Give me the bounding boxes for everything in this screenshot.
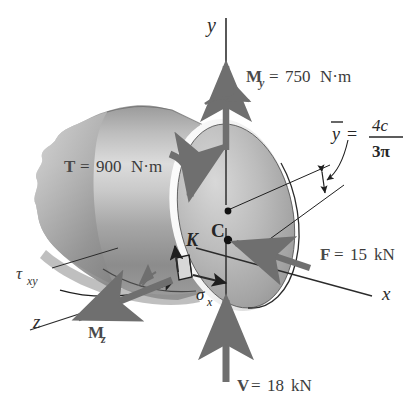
- ybar-equals: =: [347, 124, 357, 144]
- moment-y-unit: N·m: [320, 67, 351, 86]
- shear-v-symbol: V: [237, 376, 250, 395]
- ybar-denominator: 3π: [372, 142, 391, 161]
- x-axis-label: x: [381, 283, 391, 304]
- force-f-symbol: F: [320, 245, 330, 264]
- moment-y-equals: =: [269, 67, 279, 86]
- shear-v-label-group: V = 18 kN: [237, 376, 312, 395]
- torque-unit: N·m: [131, 157, 162, 176]
- moment-z-subscript: z: [100, 332, 106, 346]
- torque-equals: =: [80, 157, 90, 176]
- torque-value: 900: [96, 157, 122, 176]
- force-f-value: 15: [350, 245, 367, 264]
- y-axis-label: y: [205, 14, 216, 37]
- torque-symbol: T: [64, 157, 76, 176]
- force-f-equals: =: [334, 245, 344, 264]
- stress-point-label: K: [185, 230, 200, 250]
- ybar-point-dot: [225, 208, 232, 215]
- tau-symbol: τ: [16, 264, 23, 283]
- centroid-label: C: [211, 220, 225, 241]
- shear-v-value: 18: [267, 376, 284, 395]
- mechanics-diagram: y x z: [0, 0, 418, 400]
- shear-v-unit: kN: [291, 376, 312, 395]
- tau-subscript: xy: [26, 274, 38, 288]
- sigma-symbol: σ: [196, 285, 205, 304]
- moment-y-value: 750: [285, 67, 311, 86]
- z-axis-label: z: [32, 311, 41, 332]
- ybar-variable: y: [330, 124, 340, 144]
- ybar-numerator: 4c: [372, 116, 389, 135]
- centroid-point-dot: [224, 236, 232, 244]
- figure-container: y x z: [0, 0, 418, 400]
- shear-v-equals: =: [251, 376, 261, 395]
- moment-y-subscript: y: [257, 76, 265, 90]
- sigma-subscript: x: [206, 295, 213, 309]
- force-f-unit: kN: [374, 245, 395, 264]
